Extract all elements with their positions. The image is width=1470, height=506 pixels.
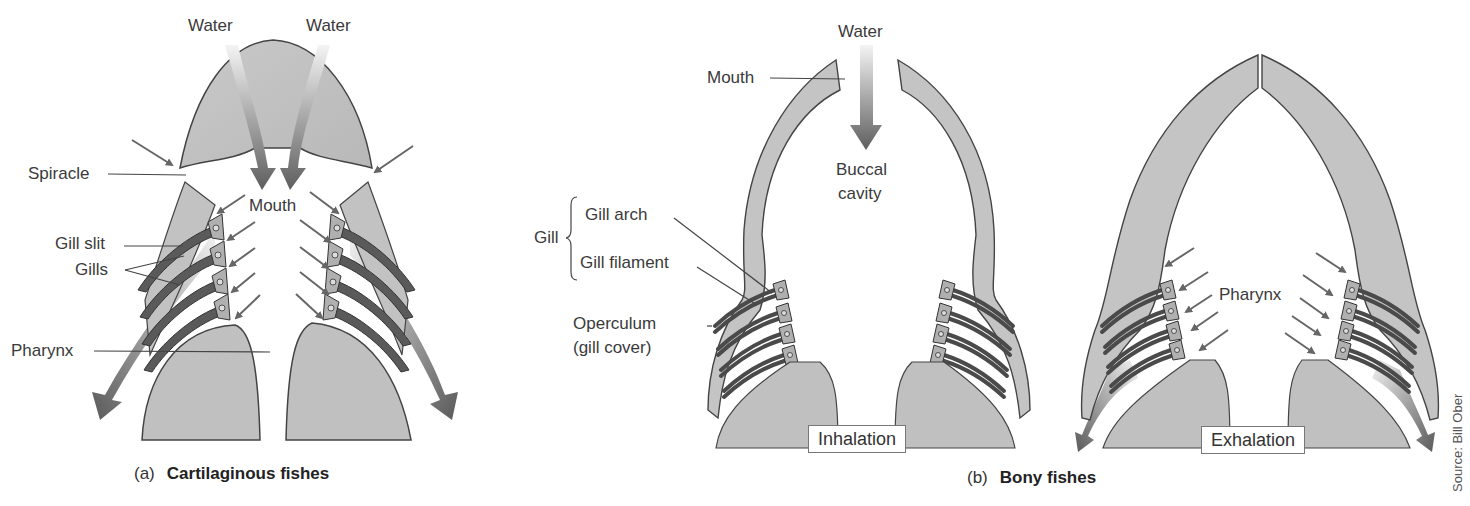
panel-b-inhalation-illustration bbox=[566, 45, 1030, 448]
label-mouth-a: Mouth bbox=[249, 196, 296, 216]
panel-a-illustration bbox=[92, 40, 458, 440]
panel-b-exhalation-illustration bbox=[1075, 55, 1438, 452]
label-operculum: Operculum bbox=[573, 314, 656, 334]
label-spiracle: Spiracle bbox=[28, 164, 89, 184]
label-water-b: Water bbox=[838, 22, 883, 42]
label-mouth-b: Mouth bbox=[707, 68, 754, 88]
source-credit: Source: Bill Ober bbox=[1450, 394, 1465, 492]
label-gill: Gill bbox=[534, 228, 559, 248]
label-cavity: cavity bbox=[838, 184, 881, 204]
label-buccal: Buccal bbox=[836, 160, 887, 180]
label-pharynx-b: Pharynx bbox=[1219, 285, 1281, 305]
label-gills: Gills bbox=[75, 260, 108, 280]
label-gill-arch: Gill arch bbox=[585, 205, 647, 225]
caption-a-letter: (a) bbox=[134, 464, 155, 483]
label-pharynx-a: Pharynx bbox=[11, 341, 73, 361]
label-gill-cover: (gill cover) bbox=[573, 338, 651, 358]
label-gill-filament: Gill filament bbox=[580, 253, 669, 273]
phase-exhalation-box: Exhalation bbox=[1201, 426, 1305, 454]
caption-b-title: Bony fishes bbox=[1000, 468, 1096, 487]
caption-a: (a)Cartilaginous fishes bbox=[134, 464, 329, 484]
caption-b-letter: (b) bbox=[967, 468, 988, 487]
caption-b: (b)Bony fishes bbox=[967, 468, 1096, 488]
label-water-left: Water bbox=[188, 16, 233, 36]
phase-inhalation-box: Inhalation bbox=[808, 425, 906, 453]
label-water-right: Water bbox=[306, 16, 351, 36]
caption-a-title: Cartilaginous fishes bbox=[167, 464, 329, 483]
label-gill-slit: Gill slit bbox=[55, 234, 105, 254]
